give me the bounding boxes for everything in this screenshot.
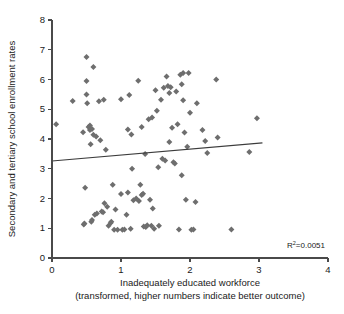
data-point [103, 147, 109, 153]
svg-text:R2=0.0051: R2=0.0051 [287, 240, 326, 250]
data-point [142, 151, 148, 157]
data-point [70, 98, 76, 104]
data-point [129, 166, 135, 172]
data-point [173, 88, 179, 94]
y-tick-label: 7 [40, 44, 45, 55]
data-point [156, 223, 162, 229]
data-point [158, 97, 164, 103]
data-point [90, 64, 96, 70]
x-tick-label: 2 [187, 264, 192, 275]
data-point [175, 121, 181, 127]
data-point [125, 190, 131, 196]
data-point [137, 182, 143, 188]
y-tick-label: 1 [40, 222, 45, 233]
y-tick-label: 8 [40, 14, 45, 25]
y-axis: 012345678 Secondary and tertiary school … [6, 14, 52, 263]
y-axis-title: Secondary and tertiary school enrollment… [6, 41, 17, 238]
data-point [128, 226, 134, 232]
data-point [153, 87, 159, 93]
r-squared-annotation: R2=0.0051 [287, 240, 326, 250]
data-point [84, 54, 90, 60]
data-point [118, 191, 124, 197]
data-point [179, 81, 185, 87]
trend-line [52, 143, 262, 161]
x-tick-label: 0 [49, 264, 54, 275]
y-tick-label: 5 [40, 103, 45, 114]
data-point [88, 141, 94, 147]
data-point [139, 124, 145, 130]
data-point [187, 110, 193, 116]
y-axis-ticks: 012345678 [40, 14, 52, 263]
data-point [213, 77, 219, 83]
data-point [154, 108, 160, 114]
data-point [179, 172, 185, 178]
data-point [194, 100, 200, 106]
data-point [124, 212, 130, 218]
data-point [97, 137, 103, 143]
data-point [110, 182, 116, 188]
data-point [53, 121, 59, 127]
data-point [228, 226, 234, 232]
data-point [101, 97, 107, 103]
data-point [112, 207, 118, 213]
x-axis-title: Inadequately educated workforce [120, 277, 260, 288]
chart-canvas: 012345678 Secondary and tertiary school … [0, 0, 344, 314]
data-point [128, 132, 134, 138]
x-axis-subtitle: (transformed, higher numbers indicate be… [75, 290, 305, 301]
data-point [176, 226, 182, 232]
plot-area [52, 54, 262, 233]
y-tick-label: 0 [40, 252, 45, 263]
data-point [125, 126, 131, 132]
data-point [166, 90, 172, 96]
y-tick-label: 6 [40, 74, 45, 85]
scatter-plot-figure: 012345678 Secondary and tertiary school … [0, 0, 344, 314]
r-squared-value: =0.0051 [296, 241, 326, 250]
data-point [147, 197, 153, 203]
x-tick-label: 1 [118, 264, 123, 275]
data-point [254, 115, 260, 121]
data-point [96, 98, 102, 104]
data-point [135, 78, 141, 84]
data-point [169, 125, 175, 131]
data-point [84, 78, 90, 84]
data-point [80, 129, 86, 135]
data-point [82, 185, 88, 191]
data-point [202, 138, 208, 144]
data-point [150, 206, 156, 212]
x-tick-label: 4 [325, 264, 330, 275]
x-axis-ticks: 01234 [49, 258, 330, 275]
data-point [193, 199, 199, 205]
data-point [199, 127, 205, 133]
data-point-markers [53, 54, 260, 233]
data-point [84, 100, 90, 106]
data-point [166, 139, 172, 145]
data-point [181, 129, 187, 135]
y-tick-label: 3 [40, 163, 45, 174]
data-point [126, 92, 132, 98]
data-point [183, 197, 189, 203]
data-point [180, 97, 186, 103]
data-point [84, 91, 90, 97]
y-tick-label: 2 [40, 193, 45, 204]
data-point [155, 164, 161, 170]
data-point [186, 70, 192, 76]
y-tick-label: 4 [40, 133, 45, 144]
x-axis: 01234 Inadequately educated workforce (t… [49, 258, 330, 301]
data-point [164, 74, 170, 80]
x-tick-label: 3 [256, 264, 261, 275]
data-point [246, 149, 252, 155]
data-point [215, 135, 221, 141]
data-point [118, 96, 124, 102]
data-point [204, 150, 210, 156]
